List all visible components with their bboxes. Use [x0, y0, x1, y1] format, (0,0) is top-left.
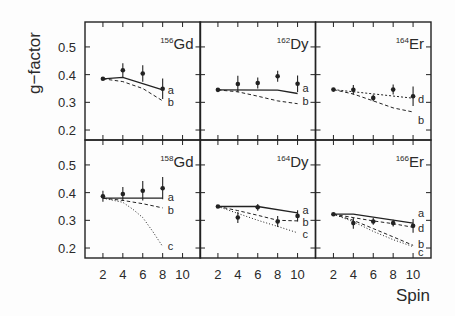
element-symbol: Er: [409, 35, 424, 52]
data-point: [121, 68, 126, 73]
data-point: [391, 221, 396, 226]
x-tick-label: 6: [370, 267, 377, 282]
y-tick-label: 0.2: [58, 241, 76, 256]
curve-label-a: a: [168, 84, 175, 96]
data-point: [411, 94, 416, 99]
data-point: [391, 87, 396, 92]
g-factor-spin-chart: ab156Gdab162Dydb164Erabc158Gdabc164Dyadb…: [0, 0, 455, 316]
curve-label-a: a: [303, 82, 310, 94]
y-tick-labels: 0.20.30.40.50.20.30.40.5: [58, 40, 76, 256]
x-tick-label: 6: [139, 267, 146, 282]
panel-grid: ab156Gdab162Dydb164Erabc158Gdabc164Dyadb…: [85, 22, 431, 258]
curve-label-b: b: [303, 216, 309, 228]
data-point: [275, 219, 280, 224]
x-tick-label: 2: [99, 267, 106, 282]
element-symbol: Er: [409, 153, 424, 170]
x-tick-label: 8: [274, 267, 281, 282]
curve-label-c: c: [418, 246, 424, 258]
x-tick-label: 6: [254, 267, 261, 282]
panel-er164: db164Er: [316, 22, 432, 140]
data-point: [295, 214, 300, 219]
data-point: [255, 205, 260, 210]
panel-label: 166Er: [396, 153, 424, 170]
element-symbol: Dy: [290, 153, 309, 170]
curve-label-b: b: [168, 204, 174, 216]
x-axis-title: Spin: [396, 286, 430, 305]
mass-number: 158: [160, 154, 174, 163]
data-point: [216, 88, 221, 93]
curve-label-d: d: [418, 93, 424, 105]
y-axis-title: g−factor: [25, 32, 44, 94]
panel-dy162: ab162Dy: [200, 22, 316, 140]
x-tick-label: 8: [159, 267, 166, 282]
data-point: [101, 194, 106, 199]
panel-er166: adbc166Er: [316, 140, 432, 258]
curve-a: [218, 90, 298, 94]
mass-number: 164: [396, 36, 410, 45]
curve-b: [103, 79, 163, 101]
data-point: [160, 186, 165, 191]
data-point: [351, 88, 356, 93]
data-point: [121, 192, 126, 197]
data-point: [216, 204, 221, 209]
x-tick-label: 8: [390, 267, 397, 282]
x-tick-label: 4: [234, 267, 241, 282]
curve-label-a: a: [303, 204, 310, 216]
data-point: [351, 221, 356, 226]
y-tick-label: 0.2: [58, 123, 76, 138]
data-point: [371, 96, 376, 101]
panel-label: 164Er: [396, 35, 424, 52]
panel-gd158: abc158Gd: [85, 140, 201, 258]
y-tick-label: 0.5: [58, 158, 76, 173]
y-tick-label: 0.3: [58, 95, 76, 110]
curve-label-a: a: [418, 207, 425, 219]
curve-label-b: b: [168, 96, 174, 108]
panel-label: 156Gd: [160, 35, 193, 52]
data-point: [295, 81, 300, 86]
panel-label: 164Dy: [277, 153, 309, 170]
mass-number: 166: [396, 154, 410, 163]
panel-label: 158Gd: [160, 153, 193, 170]
data-point: [140, 188, 145, 193]
panel-label: 162Dy: [277, 35, 309, 52]
data-point: [101, 76, 106, 81]
data-point: [255, 81, 260, 86]
curve-label-b: b: [418, 114, 424, 126]
data-point: [331, 87, 336, 92]
curve-label-c: c: [303, 228, 309, 240]
x-tick-label: 2: [214, 267, 221, 282]
element-symbol: Gd: [173, 153, 193, 170]
x-tick-label: 2: [330, 267, 337, 282]
y-tick-label: 0.4: [58, 68, 76, 83]
panel-gd156: ab156Gd: [85, 22, 201, 140]
x-tick-label: 10: [175, 267, 189, 282]
curve-label-c: c: [168, 240, 174, 252]
x-tick-labels: 246810246810246810: [99, 267, 420, 282]
mass-number: 164: [277, 154, 291, 163]
curve-label-d: d: [418, 222, 424, 234]
y-tick-label: 0.3: [58, 213, 76, 228]
data-point: [275, 74, 280, 79]
y-tick-label: 0.5: [58, 40, 76, 55]
data-point: [140, 71, 145, 76]
mass-number: 162: [277, 36, 291, 45]
data-point: [160, 86, 165, 91]
curve-a: [103, 77, 163, 90]
data-point: [371, 219, 376, 224]
data-point: [236, 82, 241, 87]
curve-label-a: a: [168, 191, 175, 203]
panel-dy164: abc164Dy: [200, 140, 316, 258]
data-point: [236, 215, 241, 220]
x-tick-label: 10: [290, 267, 304, 282]
element-symbol: Gd: [173, 35, 193, 52]
x-tick-label: 10: [406, 267, 420, 282]
data-point: [411, 224, 416, 229]
x-tick-label: 4: [119, 267, 126, 282]
curve-c: [103, 198, 163, 246]
curve-label-b: b: [303, 95, 309, 107]
x-tick-label: 4: [350, 267, 357, 282]
data-point: [331, 212, 336, 217]
mass-number: 156: [160, 36, 174, 45]
y-tick-label: 0.4: [58, 186, 76, 201]
element-symbol: Dy: [290, 35, 309, 52]
